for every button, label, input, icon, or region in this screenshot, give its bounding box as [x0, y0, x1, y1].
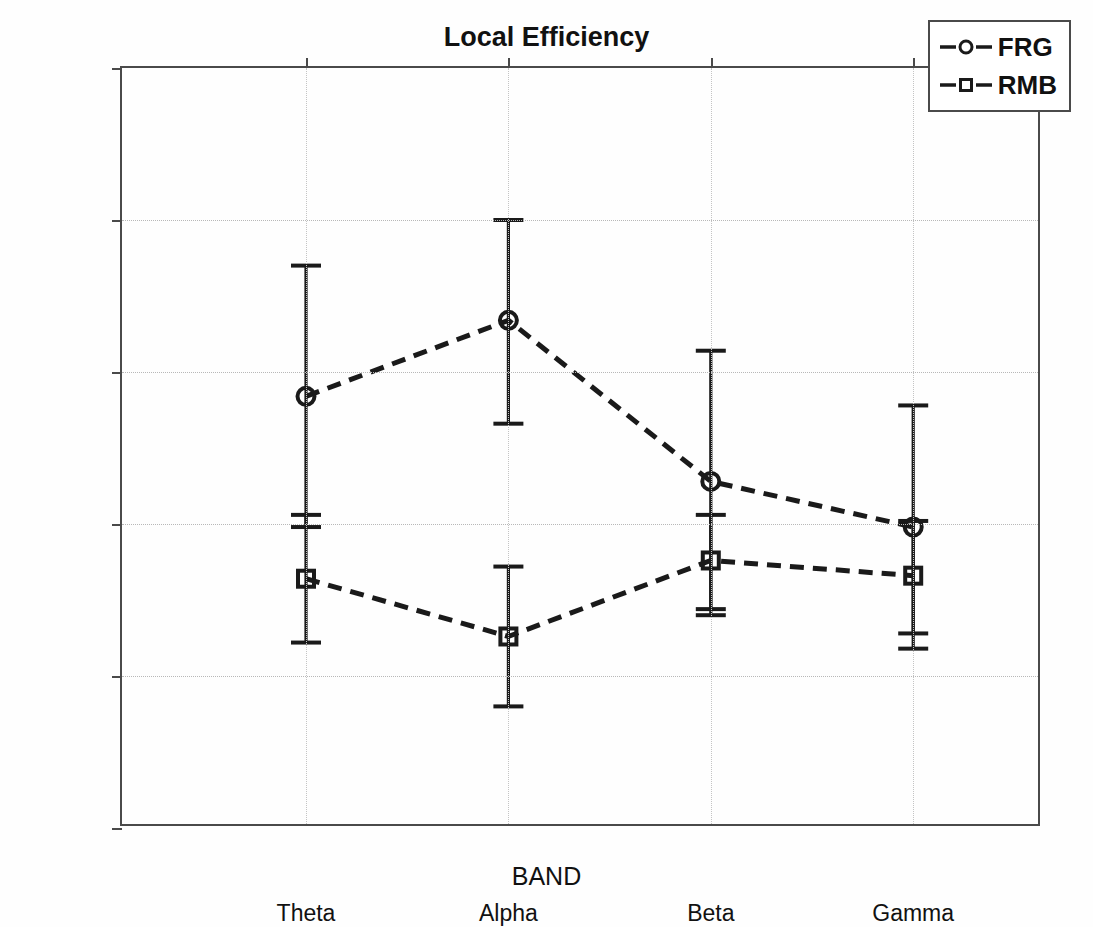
gridline-vertical [913, 68, 914, 824]
y-axis-label-sub-1: l [0, 426, 2, 432]
x-axis-tick-label-beta: Beta [631, 900, 791, 927]
legend-entry-frg[interactable]: FRG [938, 28, 1057, 66]
y-axis-tick [112, 220, 122, 222]
legend-marker-square-icon [938, 75, 994, 95]
legend-label: FRG [998, 32, 1053, 63]
series-rmb [291, 515, 928, 707]
legend-marker-square [960, 80, 971, 91]
y-axis-tick [112, 676, 122, 678]
y-axis-label: El / El-r [0, 346, 3, 454]
legend-label: RMB [998, 70, 1057, 101]
series-frg [291, 220, 928, 649]
y-axis-tick [112, 524, 122, 526]
plot-area: 32.521.510.5ThetaAlphaBetaGamma [120, 66, 1040, 826]
x-axis-tick [711, 58, 713, 68]
x-axis-label: BAND [0, 862, 1093, 891]
gridline-vertical [306, 68, 307, 824]
x-axis-tick-label-gamma: Gamma [833, 900, 993, 927]
gridline-horizontal [122, 372, 1038, 373]
x-axis-tick-label-theta: Theta [226, 900, 386, 927]
legend-marker-circle-icon [938, 37, 994, 57]
page-header-artifact [230, 0, 870, 12]
gridline-vertical [508, 68, 509, 824]
chart-legend: FRGRMB [928, 20, 1071, 112]
x-axis-tick [306, 58, 308, 68]
y-axis-label-sub-2: l [0, 371, 2, 377]
gridline-vertical [711, 68, 712, 824]
y-axis-tick [112, 372, 122, 374]
y-axis-tick [112, 828, 122, 830]
x-axis-tick-label-alpha: Alpha [428, 900, 588, 927]
x-axis-tick [508, 58, 510, 68]
x-axis-tick [913, 58, 915, 68]
legend-entry-rmb[interactable]: RMB [938, 66, 1057, 104]
legend-marker-circle [960, 41, 972, 53]
gridline-horizontal [122, 524, 1038, 525]
series-line [306, 320, 913, 527]
series-line [306, 560, 913, 636]
gridline-horizontal [122, 220, 1038, 221]
y-axis-tick [112, 68, 122, 70]
gridline-horizontal [122, 676, 1038, 677]
data-series-layer [122, 68, 1042, 828]
